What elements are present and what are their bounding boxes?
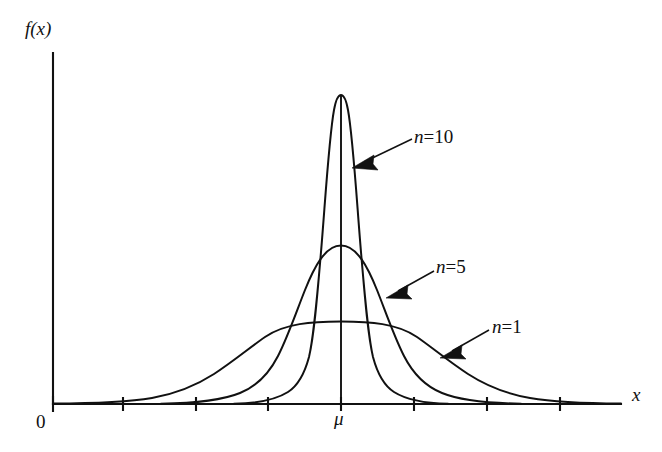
density-curve-n1 (53, 322, 621, 404)
y-axis-label: f(x) (25, 19, 51, 38)
series-label-n10-value: =10 (424, 126, 454, 147)
series-label-n5-value: =5 (446, 256, 466, 277)
series-label-n10: n=10 (414, 127, 453, 146)
series-label-n5: n=5 (436, 257, 466, 276)
origin-label: 0 (36, 412, 46, 431)
series-label-n10-variable: n (414, 126, 424, 147)
figure-canvas: f(x) x 0 μ n=10 n=5 n=1 (0, 0, 662, 452)
series-label-n5-variable: n (436, 256, 446, 277)
chart-plot-area (0, 0, 662, 452)
series-label-n1-variable: n (492, 316, 502, 337)
annotation-arrow-n5 (386, 271, 434, 299)
mu-tick-label: μ (334, 409, 344, 428)
annotation-arrow-n10 (352, 139, 412, 170)
x-axis-label: x (632, 385, 640, 404)
series-label-n1-value: =1 (502, 316, 522, 337)
series-label-n1: n=1 (492, 317, 522, 336)
annotation-arrow-n1 (440, 330, 489, 359)
